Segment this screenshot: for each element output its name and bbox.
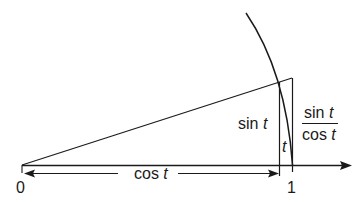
angle-t-label: t xyxy=(282,138,287,155)
one-label: 1 xyxy=(287,179,296,196)
fraction-denominator: cos t xyxy=(302,126,336,143)
unit-circle-diagram: 0 1 cos t sin t t sin t cos t xyxy=(0,0,363,201)
fraction-numerator: sin t xyxy=(304,104,334,121)
origin-label: 0 xyxy=(16,179,25,196)
cos-t-label: cos t xyxy=(134,165,168,182)
sin-t-label: sin t xyxy=(238,115,268,132)
